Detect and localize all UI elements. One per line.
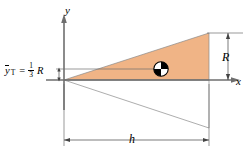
factor-R: R [37, 66, 43, 77]
overbar-accent [5, 65, 9, 66]
figure-canvas [0, 0, 250, 160]
dimension-label-h: h [129, 133, 135, 145]
centroid-distance-label: y T = 1 3 R [5, 62, 43, 80]
h-dimension-arrow-left [64, 138, 70, 142]
dimension-label-R: R [222, 51, 229, 63]
x-axis-label: x [236, 76, 241, 87]
fraction-denominator: 3 [28, 71, 34, 79]
centroid-symbol [154, 62, 168, 76]
R-dimension-arrow-bottom [226, 74, 230, 80]
y-axis-label: y [65, 5, 70, 16]
outline-triangle [64, 80, 209, 128]
equals-sign: = [19, 66, 25, 77]
fraction-one-third: 1 3 [28, 62, 34, 80]
ybar-subscript: T [11, 69, 16, 77]
centroid-triangle-figure: y x R h y T = 1 3 R [0, 0, 250, 160]
ybar-letter: y [5, 65, 10, 76]
R-dimension-arrow-top [226, 33, 230, 39]
shaded-triangle [64, 33, 209, 80]
h-dimension-arrow-right [203, 138, 209, 142]
ybar-symbol: y [5, 66, 10, 77]
ybar-dimension-arrow-top [57, 68, 60, 72]
fraction-numerator: 1 [28, 62, 34, 70]
